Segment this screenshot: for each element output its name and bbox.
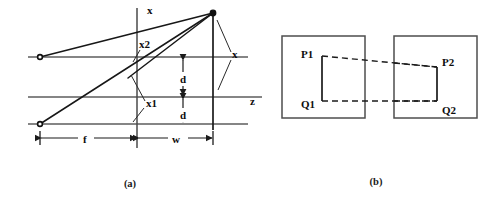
label-q1: Q1 [301, 98, 315, 110]
apex-point [210, 10, 216, 16]
label-f: f [83, 133, 87, 145]
label-w: w [172, 133, 180, 145]
ray-lower-left-to-apex [40, 13, 213, 124]
figure-root: x x2 x1 x z d d f w (a) P1 [0, 0, 493, 200]
upper-left-source-point [38, 55, 43, 60]
label-q2: Q2 [442, 104, 457, 116]
caption-panel-a: (a) [124, 178, 137, 190]
label-x1: x1 [146, 97, 157, 109]
leader-line-x1-lower [133, 108, 144, 122]
right-image-frame [394, 36, 477, 118]
label-p2: P2 [442, 56, 455, 68]
figure-svg-canvas: x x2 x1 x z d d f w (a) P1 [0, 0, 493, 200]
panel-b-group: P1 Q1 P2 Q2 (b) [282, 36, 477, 188]
panel-a-group: x x2 x1 x z d d f w (a) [28, 4, 262, 190]
label-x2: x2 [139, 38, 151, 50]
caption-panel-b: (b) [370, 176, 383, 188]
leader-line-x-right-upper [217, 20, 231, 52]
label-x-right: x [232, 48, 238, 60]
label-z: z [250, 95, 255, 107]
label-d-lower: d [180, 109, 186, 121]
left-image-frame [282, 36, 365, 118]
lower-left-source-point [38, 122, 43, 127]
ray-upper-left-to-apex [40, 13, 213, 57]
dash-extension-right-frame-top [394, 63, 437, 67]
leader-line-x-right-lower [218, 60, 231, 90]
label-p1: P1 [301, 48, 313, 60]
label-d-upper: d [180, 73, 186, 85]
label-x-top: x [147, 4, 153, 16]
